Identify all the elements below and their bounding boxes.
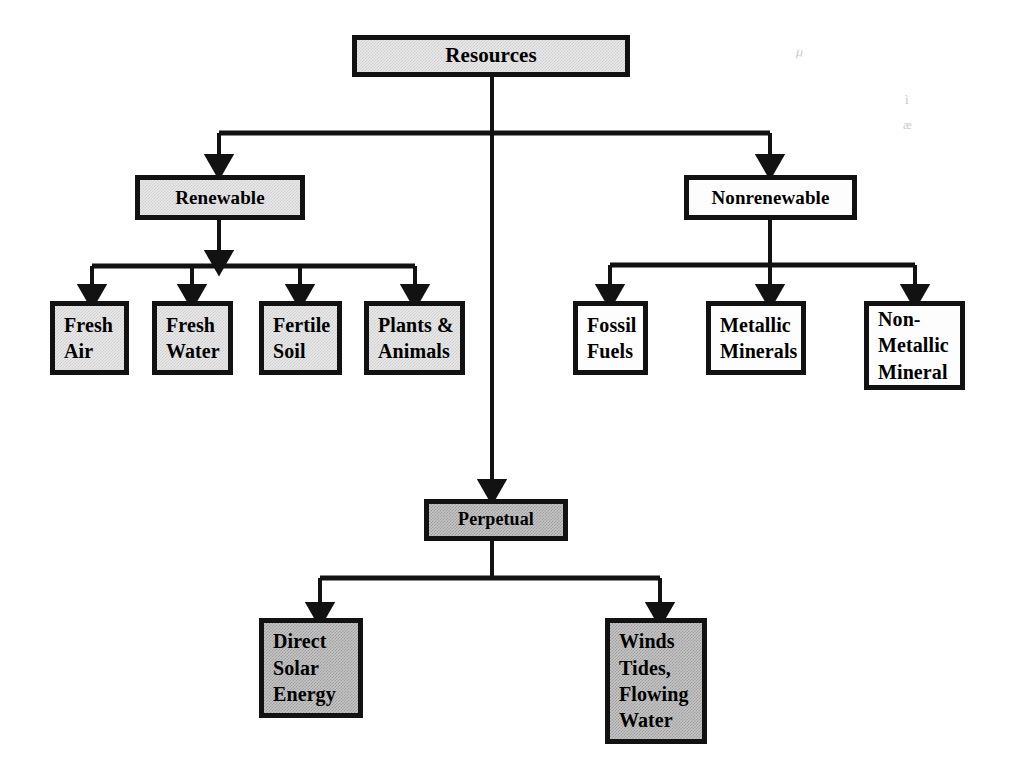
node-fertile-soil[interactable]: Fertile Soil xyxy=(259,301,342,375)
node-renewable[interactable]: Renewable xyxy=(135,175,305,220)
node-perpetual[interactable]: Perpetual xyxy=(424,499,568,541)
node-non-metallic-mineral[interactable]: Non- Metallic Mineral xyxy=(864,301,965,390)
node-plants-animals[interactable]: Plants & Animals xyxy=(364,301,465,375)
node-label: Fertile Soil xyxy=(273,312,337,365)
connector-lines xyxy=(0,0,1015,765)
node-label: Fresh Air xyxy=(64,312,124,365)
node-label: Winds Tides, Flowing Water xyxy=(619,628,702,734)
node-label: Direct Solar Energy xyxy=(273,628,358,707)
node-fresh-air[interactable]: Fresh Air xyxy=(50,301,129,375)
node-label: Nonrenewable xyxy=(689,185,852,210)
node-label: Fossil Fuels xyxy=(587,312,643,365)
node-direct-solar-energy[interactable]: Direct Solar Energy xyxy=(259,618,363,718)
node-label: Fresh Water xyxy=(166,312,228,365)
node-label: Resources xyxy=(357,42,625,70)
node-label: Renewable xyxy=(140,185,300,210)
node-fresh-water[interactable]: Fresh Water xyxy=(152,301,233,375)
node-label: Non- Metallic Mineral xyxy=(878,306,960,385)
node-label: Metallic Minerals xyxy=(720,312,801,365)
node-resources[interactable]: Resources xyxy=(352,35,630,77)
node-nonrenewable[interactable]: Nonrenewable xyxy=(684,175,857,220)
diagram-canvas: µ ì æ xyxy=(0,0,1015,765)
node-winds-tides-flowing-water[interactable]: Winds Tides, Flowing Water xyxy=(605,618,707,744)
node-metallic-minerals[interactable]: Metallic Minerals xyxy=(706,301,806,375)
node-fossil-fuels[interactable]: Fossil Fuels xyxy=(573,301,648,375)
node-label: Plants & Animals xyxy=(378,312,460,365)
node-label: Perpetual xyxy=(429,508,563,532)
